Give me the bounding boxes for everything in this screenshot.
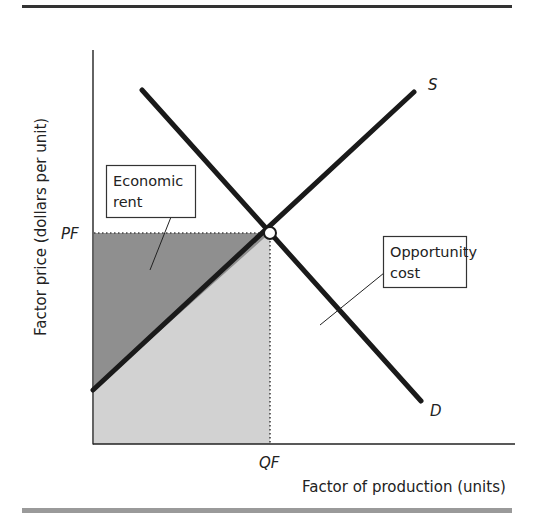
- qf-tick-label: QF: [259, 454, 280, 472]
- y-axis-title: Factor price (dollars per unit): [32, 118, 50, 336]
- opportunity-cost-line1: Opportunity: [390, 244, 477, 260]
- bottom-rule: [22, 508, 512, 513]
- opportunity-cost-line2: cost: [390, 265, 420, 281]
- pf-tick-label: PF: [61, 225, 79, 243]
- x-axis-title: Factor of production (units): [302, 478, 506, 496]
- economic-rent-line2: rent: [113, 194, 143, 210]
- top-rule: [22, 5, 512, 8]
- supply-label: S: [428, 76, 438, 94]
- demand-label: D: [430, 402, 442, 420]
- equilibrium-point: [264, 227, 276, 239]
- economic-rent-line1: Economic: [113, 173, 183, 189]
- economic-rent-chart: S D PF QF Factor of production (units) F…: [0, 0, 552, 526]
